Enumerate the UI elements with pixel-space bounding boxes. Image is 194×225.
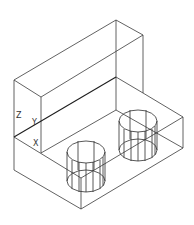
wireframe-model: Z Y X bbox=[0, 0, 194, 225]
ucs-y-label: Y bbox=[31, 118, 37, 127]
base-block bbox=[14, 93, 183, 209]
ucs-x-label: X bbox=[33, 139, 39, 148]
ucs-z-label: Z bbox=[16, 111, 22, 120]
drawing-viewport[interactable]: Z Y X bbox=[0, 0, 194, 225]
cylinder-left bbox=[67, 141, 105, 192]
